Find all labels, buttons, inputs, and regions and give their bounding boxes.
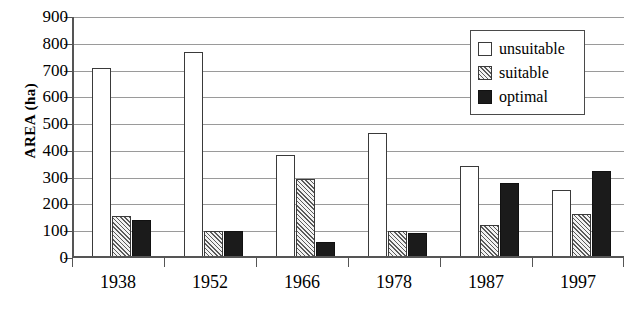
x-tick-label-1966: 1966: [257, 272, 347, 293]
y-tick-label: 800: [12, 35, 68, 52]
bar-chart: AREA (ha) 0100200300400500600700800900 1…: [0, 0, 639, 310]
legend-item-unsuitable[interactable]: unsuitable: [478, 37, 577, 61]
legend-label: optimal: [499, 89, 548, 105]
x-tick-mark: [623, 258, 624, 267]
legend-swatch-icon-unsuitable: [478, 42, 492, 56]
y-tick-label: 400: [12, 142, 68, 159]
x-tick-mark: [256, 258, 257, 267]
x-tick-mark: [532, 258, 533, 267]
y-tick-label: 700: [12, 62, 68, 79]
x-tick-mark: [348, 258, 349, 267]
y-axis-ticks: 0100200300400500600700800900: [0, 17, 68, 258]
x-tick-mark: [164, 258, 165, 267]
legend-label: unsuitable: [499, 41, 565, 57]
x-tick-label-1978: 1978: [349, 272, 439, 293]
x-tick-label-1938: 1938: [73, 272, 163, 293]
x-axis-ticks: [72, 258, 624, 268]
y-tick-label: 500: [12, 115, 68, 132]
y-tick-label: 200: [12, 195, 68, 212]
x-tick-mark: [440, 258, 441, 267]
y-tick-label: 100: [12, 222, 68, 239]
x-tick-label-1952: 1952: [165, 272, 255, 293]
x-axis-labels: 193819521966197819871997: [72, 272, 624, 302]
x-tick-label-1997: 1997: [533, 272, 623, 293]
x-tick-mark: [72, 258, 73, 267]
legend-item-optimal[interactable]: optimal: [478, 85, 577, 109]
legend-swatch-icon-optimal: [478, 90, 492, 104]
y-tick-label: 600: [12, 88, 68, 105]
y-tick-label: 300: [12, 169, 68, 186]
legend: unsuitablesuitableoptimal: [470, 30, 585, 115]
y-tick-label: 0: [12, 249, 68, 266]
y-tick-label: 900: [12, 8, 68, 25]
legend-swatch-icon-suitable: [478, 66, 492, 80]
legend-item-suitable[interactable]: suitable: [478, 61, 577, 85]
legend-label: suitable: [499, 65, 549, 81]
x-tick-label-1987: 1987: [441, 272, 531, 293]
